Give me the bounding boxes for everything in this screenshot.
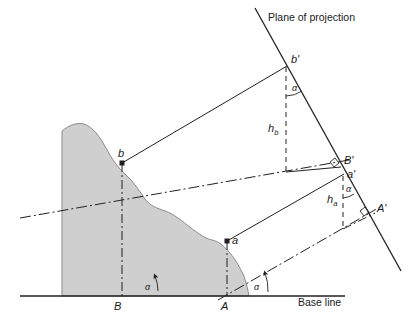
ray-b-to-bprime bbox=[122, 66, 287, 163]
angle-arc-alpha-A bbox=[265, 273, 268, 292]
terrain-silhouette bbox=[62, 123, 249, 296]
angle-arc-alpha-aprime bbox=[343, 194, 354, 198]
angle-label-alpha-bprime: α bbox=[292, 84, 297, 93]
point-marker-b bbox=[120, 161, 125, 166]
point-marker-a bbox=[225, 239, 230, 244]
height-hb-label: hb bbox=[268, 123, 278, 137]
height-ha-label: ha bbox=[327, 194, 337, 208]
point-label-A: A bbox=[221, 301, 228, 312]
point-label-a: a bbox=[232, 235, 238, 246]
height-ha-subscript: a bbox=[333, 199, 337, 208]
base-line-label: Base line bbox=[298, 297, 341, 308]
plane-of-projection-label: Plane of projection bbox=[268, 12, 355, 23]
point-label-a-prime: a' bbox=[347, 169, 355, 180]
point-label-A-prime: A' bbox=[377, 203, 386, 214]
angle-label-alpha-A: α bbox=[254, 283, 259, 292]
projection-diagram-figure: Plane of projection Base line b' b B' a'… bbox=[0, 0, 416, 323]
point-label-B: B bbox=[114, 301, 121, 312]
connector-ha-foot-to-Aprime bbox=[343, 213, 375, 229]
point-label-B-prime: B' bbox=[344, 155, 353, 166]
angle-label-alpha-B: α bbox=[145, 283, 150, 292]
connector-hb-foot-to-Bprime bbox=[286, 167, 341, 172]
terrain-hill-shape bbox=[62, 123, 249, 296]
height-hb-subscript: b bbox=[274, 128, 278, 137]
ray-A-to-Aprime bbox=[218, 207, 380, 300]
diagram-canvas bbox=[0, 0, 416, 323]
angle-label-alpha-aprime: α bbox=[346, 185, 351, 194]
point-label-b-prime: b' bbox=[291, 54, 299, 65]
point-label-b: b bbox=[118, 148, 124, 159]
plane-of-projection-line bbox=[255, 8, 401, 271]
